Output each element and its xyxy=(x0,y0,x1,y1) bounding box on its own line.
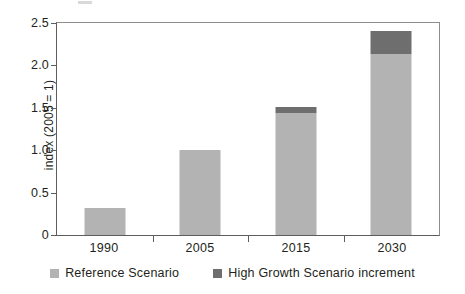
chart-legend: Reference Scenario High Growth Scenario … xyxy=(0,266,465,280)
legend-item-reference-scenario[interactable]: Reference Scenario xyxy=(50,266,179,280)
bar-slot-2015 xyxy=(248,23,344,235)
bar-stack-2030[interactable] xyxy=(371,31,412,235)
legend-swatch-icon xyxy=(213,269,222,278)
bar-segment-high-growth xyxy=(371,31,412,55)
bar-stack-1990[interactable] xyxy=(84,208,125,235)
x-axis-labels: 1990 2005 2015 2030 xyxy=(56,241,440,261)
y-tick-label: 1.0 xyxy=(31,143,49,157)
x-axis-label-2030: 2030 xyxy=(344,241,440,261)
y-tick-label: 0 xyxy=(42,228,49,242)
x-axis-label-1990: 1990 xyxy=(56,241,152,261)
legend-swatch-icon xyxy=(50,269,59,278)
bar-slot-1990 xyxy=(57,23,153,235)
y-tick-label: 0.5 xyxy=(31,186,49,200)
bar-stack-2015[interactable] xyxy=(275,107,316,235)
y-tick-mark xyxy=(51,235,57,236)
x-axis-label-2015: 2015 xyxy=(248,241,344,261)
bar-segment-reference xyxy=(84,208,125,235)
legend-label: High Growth Scenario increment xyxy=(228,266,415,280)
bar-chart: index (2005 = 1) 2.5 2.0 1.5 1.0 0.5 0 xyxy=(0,0,465,294)
bar-segment-reference xyxy=(371,54,412,235)
bar-segment-reference xyxy=(180,150,221,235)
legend-label: Reference Scenario xyxy=(65,266,179,280)
bar-segment-reference xyxy=(275,113,316,235)
bar-stack-2005[interactable] xyxy=(180,150,221,235)
legend-item-high-growth-scenario-increment[interactable]: High Growth Scenario increment xyxy=(213,266,415,280)
bar-group xyxy=(57,23,439,235)
y-tick-label: 2.0 xyxy=(31,58,49,72)
y-tick-label: 1.5 xyxy=(31,101,49,115)
bar-slot-2005 xyxy=(153,23,249,235)
y-tick-label: 2.5 xyxy=(31,16,49,30)
plot-area: 2.5 2.0 1.5 1.0 0.5 0 xyxy=(56,22,440,236)
x-axis-label-2005: 2005 xyxy=(152,241,248,261)
y-axis-title-container: index (2005 = 1) xyxy=(0,30,26,220)
bar-slot-2030 xyxy=(344,23,440,235)
